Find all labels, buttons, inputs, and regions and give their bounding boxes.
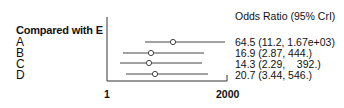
x-tick-label-1: 1: [104, 88, 110, 100]
row-b-interval: [123, 50, 204, 55]
row-d-interval: [126, 71, 208, 76]
row-c-interval: [120, 60, 202, 65]
column-header: Odds Ratio (95% CrI): [235, 10, 335, 22]
row-a-interval: [145, 39, 225, 44]
row-value-d: 20.7 (3.44, 546.): [235, 69, 312, 81]
group-header: Compared with E: [16, 24, 103, 36]
x-tick-label-2000: 2000: [216, 88, 239, 100]
row-label-d: D: [16, 69, 25, 81]
